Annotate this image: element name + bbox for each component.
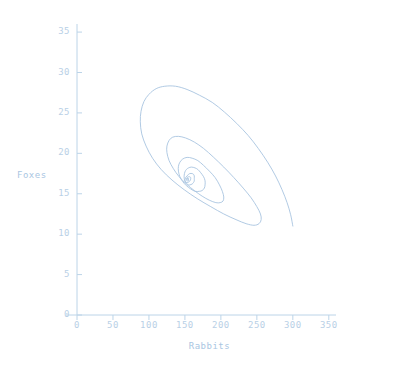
x-tick-label: 250 bbox=[237, 320, 277, 330]
x-tick-label: 150 bbox=[165, 320, 205, 330]
y-tick-label: 0 bbox=[40, 309, 70, 319]
x-tick-label: 50 bbox=[93, 320, 133, 330]
y-tick-label: 15 bbox=[40, 188, 70, 198]
y-axis-ticks bbox=[77, 32, 82, 315]
y-axis-title: Foxes bbox=[17, 170, 47, 180]
x-tick-label: 0 bbox=[57, 320, 97, 330]
trajectory-curve bbox=[140, 86, 293, 226]
y-tick-label: 25 bbox=[40, 107, 70, 117]
y-tick-label: 35 bbox=[40, 26, 70, 36]
chart-figure: 05101520253035 050100150200250300350 Fox… bbox=[0, 0, 419, 373]
x-tick-label: 300 bbox=[273, 320, 313, 330]
x-tick-label: 350 bbox=[309, 320, 349, 330]
y-tick-label: 30 bbox=[40, 67, 70, 77]
x-tick-label: 100 bbox=[129, 320, 169, 330]
x-tick-label: 200 bbox=[201, 320, 241, 330]
axes-lines bbox=[66, 24, 336, 315]
y-tick-label: 5 bbox=[40, 269, 70, 279]
x-axis-title: Rabbits bbox=[0, 341, 419, 351]
y-tick-label: 10 bbox=[40, 228, 70, 238]
y-tick-label: 20 bbox=[40, 147, 70, 157]
